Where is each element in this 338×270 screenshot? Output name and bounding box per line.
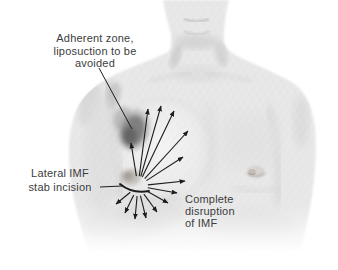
adherent-zone-label-line-2: liposuction to be	[54, 45, 137, 57]
adherent-zone-label-line-3: avoided	[75, 57, 115, 69]
lateral-imf-label-line-1: Lateral IMF	[31, 167, 89, 179]
disruption-label-line-3: of IMF	[185, 217, 217, 229]
figure-canvas: Adherent zone, liposuction to be avoided…	[0, 0, 338, 270]
medical-illustration: Adherent zone, liposuction to be avoided…	[0, 0, 338, 270]
bottom-fade	[0, 205, 338, 253]
lateral-imf-label-line-2: stab incision	[28, 181, 91, 193]
adherent-zone-label-line-1: Adherent zone,	[56, 32, 133, 44]
disruption-label-line-1: Complete	[185, 193, 234, 205]
torso-figure	[0, 0, 338, 270]
bottom-white	[0, 251, 338, 270]
disruption-label-line-2: disruption	[185, 205, 235, 217]
